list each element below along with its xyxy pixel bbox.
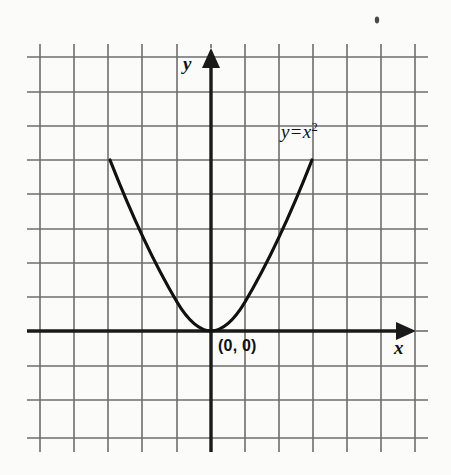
y-axis [202, 44, 220, 452]
scan-artifact-mark [375, 17, 379, 24]
y-axis-label: y [183, 54, 191, 73]
origin-point-label: (0, 0) [218, 338, 257, 354]
x-axis-label: x [394, 338, 404, 357]
equation-label: y=x2 [281, 122, 318, 141]
graph-canvas [0, 0, 451, 475]
equation-operator: = [290, 121, 303, 142]
equation-lhs: y [281, 121, 290, 142]
grid-vertical-lines [40, 44, 415, 452]
grid-horizontal-lines [27, 57, 428, 438]
graph-figure: y x y=x2 (0, 0) [0, 0, 451, 475]
equation-exponent: 2 [311, 120, 318, 134]
